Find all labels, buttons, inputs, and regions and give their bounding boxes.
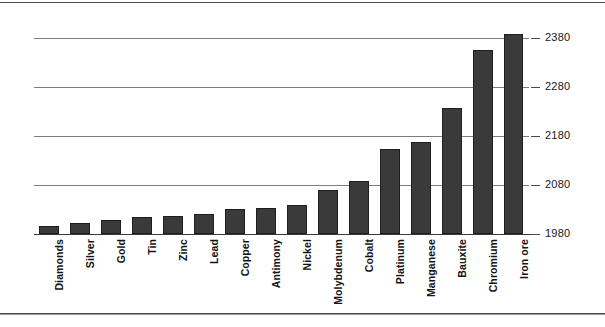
bar-iron-ore[interactable] [504, 34, 524, 234]
x-axis-label-zinc: Zinc [178, 239, 189, 261]
bar-slot [380, 28, 400, 234]
bar-slot [225, 28, 245, 234]
bar-slot [287, 28, 307, 234]
y-axis-label-2380: 2380 [545, 32, 570, 43]
y-tick-2080 [531, 185, 540, 186]
bar-slot [101, 28, 121, 234]
bar-antimony[interactable] [256, 208, 276, 235]
x-axis-label-bauxite: Bauxite [457, 239, 468, 278]
plot-area [34, 28, 529, 234]
bar-molybdenum[interactable] [318, 190, 338, 234]
x-axis-label-platinum: Platinum [395, 239, 406, 284]
y-axis-label-2080: 2080 [545, 179, 570, 190]
x-axis-label-lead: Lead [209, 239, 220, 264]
figure-top-rule [0, 2, 605, 3]
bar-silver[interactable] [70, 223, 90, 234]
bar-slot [442, 28, 462, 234]
x-axis-label-chromium: Chromium [488, 239, 499, 292]
y-axis-label-1980: 1980 [545, 228, 570, 239]
bar-slot [256, 28, 276, 234]
x-axis-label-manganese: Manganese [426, 239, 437, 297]
bar-slot [70, 28, 90, 234]
bar-slot [132, 28, 152, 234]
bar-chromium[interactable] [473, 50, 493, 234]
bar-tin[interactable] [132, 217, 152, 234]
bar-lead[interactable] [194, 214, 214, 234]
x-axis-label-iron-ore: Iron ore [519, 239, 530, 279]
bar-chart-figure: 19802080218022802380 DiamondsSilverGoldT… [0, 0, 605, 327]
x-axis-label-antimony: Antimony [271, 239, 282, 288]
bar-cobalt[interactable] [349, 181, 369, 235]
bar-gold[interactable] [101, 220, 121, 234]
figure-bottom-rule-shadow [0, 314, 605, 315]
bar-zinc[interactable] [163, 216, 183, 234]
bar-slot [39, 28, 59, 234]
x-axis-label-silver: Silver [85, 239, 96, 268]
bar-bauxite[interactable] [442, 108, 462, 235]
y-axis-label-2280: 2280 [545, 81, 570, 92]
y-axis-label-2180: 2180 [545, 130, 570, 141]
bar-diamonds[interactable] [39, 226, 59, 234]
bar-nickel[interactable] [287, 205, 307, 234]
y-tick-2280 [531, 87, 540, 88]
bar-slot [349, 28, 369, 234]
y-tick-1980 [531, 234, 540, 235]
x-axis-label-molybdenum: Molybdenum [333, 239, 344, 305]
bar-platinum[interactable] [380, 149, 400, 234]
x-axis-label-cobalt: Cobalt [364, 239, 375, 272]
x-axis-label-copper: Copper [240, 239, 251, 276]
bar-slot [473, 28, 493, 234]
bar-slot [163, 28, 183, 234]
bars-group [34, 28, 529, 234]
bar-slot [411, 28, 431, 234]
bar-slot [504, 28, 524, 234]
bar-slot [318, 28, 338, 234]
y-tick-2180 [531, 136, 540, 137]
x-axis-baseline [34, 234, 532, 235]
bar-slot [194, 28, 214, 234]
x-axis-label-nickel: Nickel [302, 239, 313, 271]
x-axis-label-diamonds: Diamonds [54, 239, 65, 291]
y-tick-2380 [531, 38, 540, 39]
bar-copper[interactable] [225, 209, 245, 235]
x-axis-label-tin: Tin [147, 239, 158, 255]
bar-manganese[interactable] [411, 142, 431, 234]
x-axis-label-gold: Gold [116, 239, 127, 263]
